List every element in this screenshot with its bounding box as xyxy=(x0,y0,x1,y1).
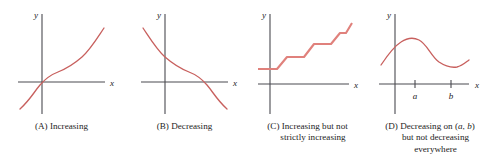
y-axis-label: y xyxy=(33,10,38,20)
panel-b-caption: (B) Decreasing xyxy=(123,121,246,132)
curve-increasing xyxy=(20,28,104,109)
panel-d-caption-line-2: but not decreasing xyxy=(369,132,491,143)
panel-d-caption: (D) Decreasing on (a, b) but not decreas… xyxy=(369,121,491,155)
panel-c-svg: y x xyxy=(246,2,369,120)
x-axis-label: x xyxy=(109,78,114,88)
panel-c: y x (C) Increasing but not strictly incr… xyxy=(246,0,369,165)
panel-d-caption-suffix: ) xyxy=(472,121,475,131)
panel-d-caption-line-3: everywhere xyxy=(369,144,491,155)
panel-a: y x (A) Increasing xyxy=(0,0,123,165)
curve-staircase xyxy=(258,23,352,69)
panel-c-caption: (C) Increasing but not strictly increasi… xyxy=(246,121,369,144)
panel-d-plot: y x a b xyxy=(369,2,491,120)
panel-d-svg: y x a b xyxy=(369,2,491,120)
panel-b-caption-line-1: (B) Decreasing xyxy=(123,121,246,132)
panel-c-caption-line-1: (C) Increasing but not xyxy=(246,121,369,132)
panel-a-caption-line-1: (A) Increasing xyxy=(0,121,123,132)
y-axis-label: y xyxy=(261,10,266,20)
panel-d: y x a b (D) Decreasing on (a, b) but not… xyxy=(369,0,491,165)
figure-container: y x (A) Increasing y x (B) Decreasing xyxy=(0,0,491,165)
x-axis-label: x xyxy=(353,80,358,90)
y-axis-label: y xyxy=(156,10,161,20)
x-axis-label: x xyxy=(474,80,479,90)
panel-a-caption: (A) Increasing xyxy=(0,121,123,132)
panel-c-plot: y x xyxy=(246,2,369,120)
panel-a-svg: y x xyxy=(0,2,123,120)
curve-hump-then-dip xyxy=(381,38,469,67)
curve-decreasing xyxy=(143,28,227,109)
y-axis-label: y xyxy=(386,10,391,20)
panel-a-plot: y x xyxy=(0,2,123,120)
panel-b-plot: y x xyxy=(123,2,246,120)
panel-d-caption-prefix: (D) Decreasing on ( xyxy=(385,121,458,131)
panel-c-caption-line-2: strictly increasing xyxy=(246,132,369,143)
tick-label-a: a xyxy=(413,91,418,101)
tick-label-b: b xyxy=(449,91,454,101)
panel-b: y x (B) Decreasing xyxy=(123,0,246,165)
x-axis-label: x xyxy=(232,78,237,88)
panel-d-caption-line-1: (D) Decreasing on (a, b) xyxy=(369,121,491,132)
panel-b-svg: y x xyxy=(123,2,246,120)
